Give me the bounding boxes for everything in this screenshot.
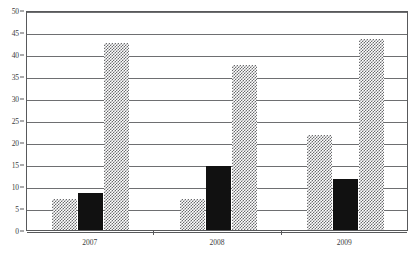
- y-axis-tick-label: 40: [12, 51, 19, 60]
- gridline: [27, 232, 407, 233]
- y-axis: 05101520253035404550: [0, 11, 24, 231]
- y-axis-tick-mark: [20, 143, 24, 144]
- bar: [232, 65, 257, 230]
- y-axis-tick-mark: [20, 55, 24, 56]
- bar: [206, 166, 231, 230]
- bar: [78, 193, 103, 230]
- y-axis-tick-label: 45: [12, 29, 19, 38]
- y-axis-tick-label: 10: [12, 183, 19, 192]
- bar: [333, 179, 358, 230]
- y-axis-tick-label: 50: [12, 7, 19, 16]
- y-axis-tick-label: 0: [15, 227, 19, 236]
- x-axis-tick-mark: [153, 231, 154, 235]
- bar: [359, 39, 384, 230]
- y-axis-tick-mark: [20, 209, 24, 210]
- y-axis-tick-label: 20: [12, 139, 19, 148]
- y-axis-tick-mark: [20, 33, 24, 34]
- x-axis-tick-label: 2007: [82, 238, 97, 247]
- y-axis-tick-label: 15: [12, 161, 19, 170]
- y-axis-tick-mark: [20, 231, 24, 232]
- y-axis-tick-mark: [20, 121, 24, 122]
- bar: [180, 199, 205, 230]
- x-axis-tick-label: 2009: [337, 238, 352, 247]
- bar: [104, 43, 129, 230]
- x-axis: 200720082009: [26, 234, 408, 252]
- bars-layer: [27, 12, 407, 230]
- y-axis-tick-mark: [20, 165, 24, 166]
- bar-chart: 05101520253035404550 200720082009: [0, 0, 418, 256]
- y-axis-tick-label: 5: [15, 205, 19, 214]
- y-axis-tick-mark: [20, 77, 24, 78]
- y-axis-tick-mark: [20, 11, 24, 12]
- plot-area: [26, 11, 408, 231]
- bar: [307, 135, 332, 230]
- x-axis-tick-mark: [281, 231, 282, 235]
- y-axis-tick-mark: [20, 187, 24, 188]
- y-axis-tick-label: 30: [12, 95, 19, 104]
- y-axis-tick-label: 35: [12, 73, 19, 82]
- y-axis-tick-mark: [20, 99, 24, 100]
- x-axis-tick-label: 2008: [210, 238, 225, 247]
- bar: [52, 199, 77, 230]
- y-axis-tick-label: 25: [12, 117, 19, 126]
